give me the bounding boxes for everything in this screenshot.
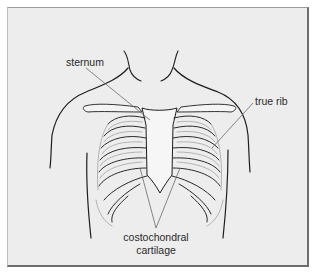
sternum-bone xyxy=(142,108,177,193)
true-rib-label: true rib xyxy=(255,96,288,107)
costochondral-label-line2: cartilage xyxy=(106,244,206,257)
costochondral-label-line1: costochondral xyxy=(106,231,206,244)
costochondral-cartilage-label: costochondral cartilage xyxy=(106,231,206,257)
sternum-leader-line xyxy=(86,68,150,120)
sternum-label: sternum xyxy=(66,57,104,68)
neck-outline xyxy=(124,51,178,81)
